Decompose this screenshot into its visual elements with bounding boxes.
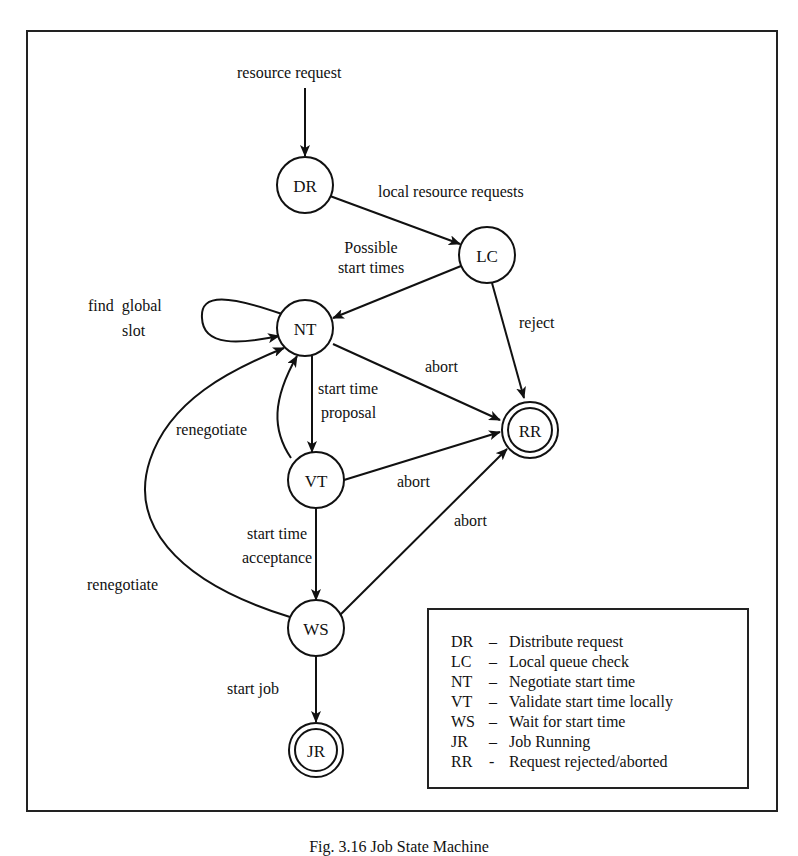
legend-row: LC–Local queue check xyxy=(451,652,747,672)
edge-label-possible: Possible xyxy=(344,239,397,256)
figure-caption: Fig. 3.16 Job State Machine xyxy=(0,838,798,856)
legend-abbr: RR xyxy=(451,752,489,772)
legend-separator: – xyxy=(489,692,509,712)
legend-separator: – xyxy=(489,732,509,752)
legend-text: Wait for start time xyxy=(509,712,625,732)
legend-row: VT–Validate start time locally xyxy=(451,692,747,712)
edge-label-vt-rr-abort: abort xyxy=(397,473,430,490)
legend-abbr: WS xyxy=(451,712,489,732)
legend-separator: – xyxy=(489,672,509,692)
legend-abbr: VT xyxy=(451,692,489,712)
legend-text: Negotiate start time xyxy=(509,672,635,692)
legend-text: Job Running xyxy=(509,732,590,752)
legend-separator: – xyxy=(489,712,509,732)
edge-label-find-global: find global xyxy=(88,297,162,315)
legend-text: Local queue check xyxy=(509,652,629,672)
legend-text: Request rejected/aborted xyxy=(509,752,668,772)
node-label-ws: WS xyxy=(303,620,329,639)
legend-box: DR–Distribute request LC–Local queue che… xyxy=(427,608,749,789)
edge-label-nt-rr-abort: abort xyxy=(425,358,458,375)
node-label-rr: RR xyxy=(519,422,542,441)
edge-label-slot: slot xyxy=(122,322,146,339)
edge-label-reject: reject xyxy=(519,314,555,332)
edge-nt-self xyxy=(202,300,282,342)
node-label-nt: NT xyxy=(294,320,317,339)
edge-dr-lc xyxy=(330,196,460,244)
legend-row: NT–Negotiate start time xyxy=(451,672,747,692)
legend-row: WS–Wait for start time xyxy=(451,712,747,732)
edge-label-resource-request: resource request xyxy=(237,64,342,82)
legend-separator: – xyxy=(489,652,509,672)
edge-label-start-time-acceptance-1: start time xyxy=(247,525,307,542)
edge-lc-rr xyxy=(492,283,524,398)
legend-row: RR-Request rejected/aborted xyxy=(451,752,747,772)
edge-label-start-job: start job xyxy=(227,680,279,698)
edge-label-vt-nt-renegotiate: renegotiate xyxy=(176,421,247,439)
legend-text: Validate start time locally xyxy=(509,692,673,712)
node-label-vt: VT xyxy=(305,472,328,491)
legend-separator: - xyxy=(489,752,509,772)
edge-label-local-resource-requests: local resource requests xyxy=(378,183,524,201)
legend-row: DR–Distribute request xyxy=(451,632,747,652)
edge-label-start-time-proposal-2: proposal xyxy=(321,404,377,422)
edge-label-ws-rr-abort: abort xyxy=(454,512,487,529)
node-label-dr: DR xyxy=(293,177,317,196)
legend-abbr: NT xyxy=(451,672,489,692)
node-label-lc: LC xyxy=(476,247,498,266)
node-label-jr: JR xyxy=(307,742,326,761)
edge-label-start-time-proposal-1: start time xyxy=(318,380,378,397)
edge-vt-nt xyxy=(277,356,297,458)
legend-abbr: LC xyxy=(451,652,489,672)
legend-text: Distribute request xyxy=(509,632,623,652)
legend-abbr: JR xyxy=(451,732,489,752)
edge-ws-nt xyxy=(145,348,290,617)
edge-label-start-times: start times xyxy=(338,259,404,276)
legend-row: JR–Job Running xyxy=(451,732,747,752)
legend-separator: – xyxy=(489,632,509,652)
legend-abbr: DR xyxy=(451,632,489,652)
edge-label-start-time-acceptance-2: acceptance xyxy=(242,549,312,567)
edge-label-ws-nt-renegotiate: renegotiate xyxy=(87,576,158,594)
